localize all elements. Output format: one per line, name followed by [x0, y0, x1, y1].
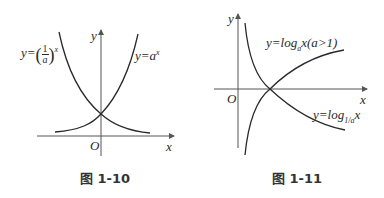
- y-axis-label: y: [91, 29, 97, 42]
- caption: 图 1-10: [80, 168, 130, 187]
- label-log-a: y=logax(a>1): [266, 36, 337, 53]
- curve-log-a: [245, 50, 344, 155]
- label-y-equals-one-over-a-x: y=(1a)x: [21, 44, 58, 65]
- figure-1-11: y x O y=logax(a>1) y=log1/ax 图 1-11: [192, 0, 384, 198]
- y-axis-label: y: [228, 12, 234, 25]
- origin-label: O: [90, 139, 99, 152]
- caption: 图 1-11: [272, 168, 322, 187]
- label-y-equals-a-x: y=ax: [135, 49, 160, 62]
- curve-a-to-x: [55, 34, 138, 132]
- x-axis-label: x: [360, 93, 366, 106]
- x-axis-label: x: [166, 140, 172, 153]
- label-log-one-over-a: y=log1/ax: [313, 108, 360, 125]
- origin-label: O: [227, 92, 236, 105]
- figure-1-10: y x O y=ax y=(1a)x 图 1-10: [0, 0, 192, 198]
